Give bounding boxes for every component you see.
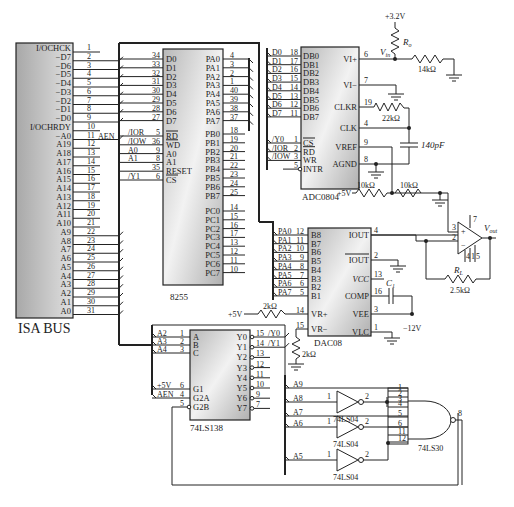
isa-pin-number: 22 [87, 227, 95, 236]
isa-pin-number: 14 [87, 157, 95, 166]
isa-pin-number: 27 [87, 271, 95, 280]
pin-dac-vcc: VCC [352, 274, 369, 284]
pin-number: 16 [374, 287, 382, 296]
pin-number: 14 [256, 339, 264, 348]
signal-label: D5 [272, 92, 282, 101]
isa-bus-label: ISA BUS [18, 321, 71, 336]
isa-pin-number: 7 [87, 96, 91, 105]
isa-pin-number: 11 [87, 131, 95, 140]
isa-pin-number: 23 [87, 236, 95, 245]
pin-adc-vref: VREF [335, 142, 357, 152]
pin-138-y3: Y3 [237, 363, 247, 373]
inverter-label: 74LS04 [333, 473, 358, 482]
adc0804-label: ADC0804 [302, 192, 340, 202]
pin-adc-clk: CLK [340, 123, 358, 133]
pin-8255-pa7: PA7 [206, 116, 220, 126]
address-decoder-logic: A9A8A7A6A51274LS041274LS041274LS04123456… [285, 380, 462, 485]
chip-8255-label: 8255 [170, 292, 189, 302]
isa-pin-number: 20 [87, 209, 95, 218]
isa-pin-name: A0 [61, 306, 71, 316]
ls138-label: 74LS138 [190, 423, 224, 433]
aen-label: AEN [98, 132, 115, 141]
isa-pin-number: 15 [87, 166, 95, 175]
r2k-a-label: 2kΩ [263, 302, 277, 311]
signal-label: PA0 [278, 227, 292, 236]
signal-label: A1 [128, 154, 138, 163]
resistor-ro [391, 28, 399, 59]
isa-pin-number: 18 [87, 192, 95, 201]
svg-text:4: 4 [466, 252, 470, 261]
isa-pin-number: 30 [87, 297, 95, 306]
svg-text:7: 7 [473, 215, 477, 224]
svg-text:2: 2 [452, 233, 456, 242]
pin-number: 4 [374, 226, 378, 235]
signal-label: PA5 [278, 271, 292, 280]
signal-label: PA3 [278, 253, 292, 262]
nand-label: 74LS30 [418, 444, 443, 453]
isa-pin-number: 12 [87, 139, 95, 148]
pin-number: 6 [364, 50, 368, 59]
signal-label: /Y1 [268, 339, 280, 348]
pin-adc-vi: VI− [343, 80, 357, 90]
isa-pin-number: 24 [87, 244, 95, 253]
dac08-label: DAC08 [314, 338, 343, 348]
pin-number: 11 [256, 370, 264, 379]
isa-pin-number: 1 [87, 43, 91, 52]
pin-number: 13 [256, 349, 264, 358]
isa-pin-number: 5 [87, 78, 91, 87]
isa-pin-number: 3 [87, 61, 91, 70]
pin-number: 9 [256, 390, 260, 399]
ls138-right-pins: Y015/Y0Y114/Y1Y213Y312Y411Y510Y69Y77 [237, 329, 289, 413]
inverter-gate [337, 391, 358, 413]
signal-label: /Y1 [128, 172, 140, 181]
pin-number: 13 [374, 270, 382, 279]
signal-label: /IOW [272, 152, 291, 161]
dac08-left-pins: B812PA0B711PA1B610PA2B59PA3B48PA4B37PA5B… [273, 227, 328, 334]
signal-label: D1 [272, 57, 282, 66]
r14k-label: 14kΩ [418, 65, 436, 74]
pin-dac-comp: COMP [345, 291, 369, 301]
inv-pin: 1 [327, 392, 331, 401]
pin-138-y2: Y2 [237, 352, 247, 362]
inverter-gate [337, 449, 358, 471]
pin-number: 7 [364, 76, 368, 85]
svg-text:5: 5 [476, 252, 480, 261]
svg-text:3: 3 [452, 223, 456, 232]
pin-138-y1: Y1 [237, 342, 247, 352]
pin-adc-vi: VI+ [343, 54, 357, 64]
signal-label: PA4 [278, 262, 292, 271]
isa-pin-number: 2 [87, 52, 91, 61]
signal-label: /IOR [128, 128, 145, 137]
pin-8255-pc7: PC7 [205, 268, 220, 278]
svg-text:−: − [461, 241, 466, 250]
rl-value: 2.5kΩ [450, 286, 470, 295]
ro-label: Ro [402, 37, 412, 48]
pin-138-y4: Y4 [237, 373, 248, 383]
signal-label: D0 [272, 48, 282, 57]
c1-label: C1 [386, 278, 395, 289]
nand-out-pin: 8 [458, 409, 462, 418]
pin-138-c: C [193, 348, 199, 358]
pin-8255-d7: D7 [166, 116, 176, 126]
signal-label: A4 [157, 345, 167, 354]
signal-label: A0 [128, 146, 138, 155]
isa-pin-number: 28 [87, 279, 95, 288]
pin-number: 2 [374, 251, 378, 260]
pin-dac-vr: VR+ [311, 309, 328, 319]
c140p-label: 140pF [421, 140, 445, 150]
inv-pin: 2 [365, 392, 369, 401]
pin-number: 1 [374, 323, 378, 332]
signal-label: PA1 [278, 236, 292, 245]
pin-number: 15 [256, 329, 264, 338]
r10k-b-label: 10kΩ [400, 181, 418, 190]
r2k-b-label: 2kΩ [302, 350, 316, 359]
signal-label: AEN [157, 390, 174, 399]
signal-label: +5V [157, 381, 172, 390]
pin-adc-agnd: AGND [332, 159, 357, 169]
isa-pin-number: 10 [87, 122, 95, 131]
pin-number: 19 [364, 98, 372, 107]
isa-pin-number: 21 [87, 218, 95, 227]
signal-label: PA2 [278, 244, 292, 253]
signal-label: D2 [272, 65, 282, 74]
isa-pin-number: 9 [87, 113, 91, 122]
